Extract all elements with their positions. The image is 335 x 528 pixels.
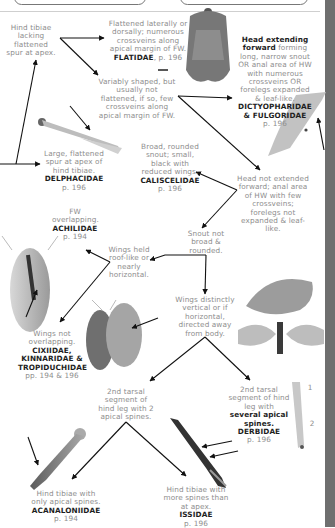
page-ref: p. 196 bbox=[62, 183, 86, 192]
page-ref: p. 196 bbox=[184, 519, 208, 528]
node-variably-shaped: Variably shaped, but usually not flatten… bbox=[98, 78, 176, 120]
node-text: Large, flattened spur at apex of hind ti… bbox=[44, 149, 104, 175]
page-ref: p. 196 bbox=[158, 53, 182, 62]
page-ref: p. 194 bbox=[54, 514, 78, 523]
node-text-bold: several apical spines. bbox=[230, 410, 288, 427]
node-text: FW overlapping. bbox=[52, 207, 99, 224]
derbidae-leg-label-2: 2 bbox=[308, 420, 316, 428]
node-dictyopharidae-fulgoridae: Head extending forward forming long, nar… bbox=[238, 36, 312, 128]
node-text: 2nd tarsal segment of hind leg with 2 ap… bbox=[98, 387, 154, 421]
node-cixiidae-group: Wings not overlapping. CIXIIDAE, KINNARI… bbox=[18, 330, 86, 380]
node-text: Variably shaped, but usually not flatten… bbox=[98, 77, 175, 120]
derbidae-leg-label-1: 1 bbox=[306, 384, 314, 392]
node-text: Hind tibiae with more spines than at ape… bbox=[163, 485, 228, 511]
node-achilidae: FW overlapping. ACHILIDAE p. 194 bbox=[52, 208, 98, 242]
node-text: Wings held roof-like or nearly horizonta… bbox=[108, 245, 149, 279]
page-ref: p. 196 bbox=[247, 435, 271, 444]
node-tarsal-2-spines: 2nd tarsal segment of hind leg with 2 ap… bbox=[96, 388, 156, 422]
family-name: DICTYOPHARIDAE & FULGORIDAE bbox=[238, 103, 312, 120]
node-flatidae: Flattened laterally or dorsally; numerou… bbox=[106, 20, 190, 62]
node-head-not-extended: Head not extended forward; anal area of … bbox=[236, 175, 310, 234]
page-ref: pp. 194 & 196 bbox=[25, 371, 78, 380]
page-ref: p. 196 bbox=[263, 119, 287, 128]
node-wings-roof-like: Wings held roof-like or nearly horizonta… bbox=[106, 246, 152, 280]
node-delphacidae: Large, flattened spur at apex of hind ti… bbox=[42, 150, 106, 192]
node-caliscelidae: Broad, rounded snout; small, black with … bbox=[136, 143, 204, 193]
node-text: forming long, narrow snout OR anal area … bbox=[238, 43, 312, 102]
page-ref: p. 196 bbox=[158, 184, 182, 193]
node-text: Flattened laterally or dorsally; numerou… bbox=[109, 19, 188, 53]
node-text: 2nd tarsal segment of hind leg with bbox=[228, 385, 289, 411]
family-name: CIXIIDAE, KINNARIDAE & TROPIDUCHIDAE bbox=[18, 347, 86, 372]
node-text: Wings distinctly vertical or if horizont… bbox=[175, 295, 234, 338]
node-acanaloniidae: Hind tibiae with only apical spines. ACA… bbox=[30, 490, 102, 524]
node-hind-tibiae-lacking-spur: Hind tibiae lacking flattened spur at ap… bbox=[6, 24, 56, 58]
node-text: Hind tibiae lacking flattened spur at ap… bbox=[6, 23, 55, 57]
family-name: FLATIDAE bbox=[114, 53, 154, 62]
node-derbidae: 2nd tarsal segment of hind leg with seve… bbox=[228, 386, 290, 445]
node-text: Head not extended forward; anal area of … bbox=[237, 174, 309, 233]
node-issidae: Hind tibiae with more spines than at ape… bbox=[160, 486, 232, 528]
page-ref: p. 194 bbox=[63, 232, 87, 241]
node-text: Broad, rounded snout; small, black with … bbox=[141, 142, 199, 176]
node-text: Hind tibiae with only apical spines. bbox=[31, 489, 100, 506]
node-text: Wings not overlapping. bbox=[29, 329, 76, 346]
node-wings-vertical: Wings distinctly vertical or if horizont… bbox=[174, 296, 236, 338]
node-snout-not-broad: Snout not broad & rounded. bbox=[184, 230, 228, 255]
node-text: Snout not broad & rounded. bbox=[188, 229, 224, 255]
